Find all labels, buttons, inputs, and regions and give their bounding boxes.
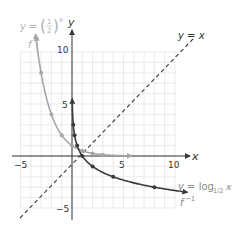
svg-text:2: 2 [47,27,51,35]
data-point [80,154,84,158]
log-equation: y = log 1/2 x [177,181,232,195]
log-name: f −1 [180,195,195,208]
data-point [39,71,43,75]
x-tick-label: 5 [119,160,125,170]
data-point [91,164,95,168]
svg-text:x: x [225,182,232,192]
identity-line [20,38,194,218]
svg-text:(: ( [40,17,46,35]
exponential-equation: y = ( 1 2 ) x [19,16,64,35]
svg-text:1/2: 1/2 [213,187,223,195]
svg-text:y =: y = [19,21,37,32]
grid [21,52,176,208]
data-point [70,144,74,148]
function-graph: −5 5 10 10 5 −5 x y y = ( 1 2 ) x f y = … [0,0,238,235]
y-tick-label: −5 [56,204,69,214]
data-point [91,151,95,155]
data-point [111,175,115,179]
x-axis-label: x [191,150,199,163]
exponential-curve [35,34,131,156]
data-point [75,144,79,148]
data-point [60,133,64,137]
svg-text:y = log: y = log [177,181,214,192]
data-point [73,133,77,137]
data-point [152,185,156,189]
identity-equation: y = x [177,30,205,41]
svg-text:): ) [53,17,59,35]
svg-text:−1: −1 [185,195,195,203]
x-tick-label: 10 [168,160,180,170]
y-tick-label: 10 [57,45,69,55]
data-point [71,123,75,127]
data-point [49,112,53,116]
svg-text:x: x [58,16,64,24]
y-axis-label: y [67,16,75,29]
svg-text:1: 1 [47,18,51,26]
exponential-name: f [28,39,33,50]
data-point [101,153,105,157]
y-tick-label: 5 [62,100,68,110]
x-tick-label: −5 [14,160,27,170]
